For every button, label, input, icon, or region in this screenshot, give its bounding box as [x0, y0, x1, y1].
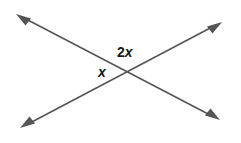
angle-label-2x-variable: x	[124, 44, 134, 60]
diagram-canvas: 2x x	[0, 0, 241, 143]
angle-label-2x-coefficient: 2	[117, 44, 125, 60]
angle-label-2x: 2x	[117, 44, 134, 60]
diagram-background	[0, 0, 241, 143]
angle-label-x: x	[97, 64, 107, 80]
angle-diagram-figure: 2x x	[0, 0, 241, 143]
